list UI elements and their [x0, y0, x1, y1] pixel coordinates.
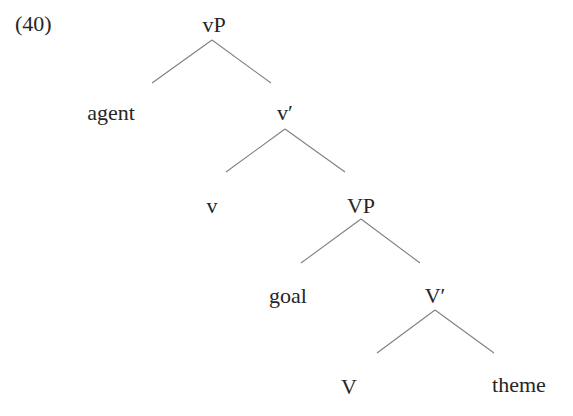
node-VP: VP	[347, 195, 375, 217]
node-V: V	[341, 376, 357, 398]
edge-vP-agent	[152, 40, 212, 83]
edge-v-bar-v	[226, 129, 285, 172]
node-v: v	[207, 195, 218, 217]
edge-VP-V-bar	[361, 219, 420, 263]
edge-VP-goal	[301, 219, 361, 263]
node-vP: vP	[202, 14, 225, 36]
edge-vP-v-bar	[212, 40, 271, 83]
node-v-bar: v′	[277, 102, 293, 124]
edge-V-bar-theme	[435, 310, 494, 353]
node-theme: theme	[492, 374, 546, 396]
edge-V-bar-V	[377, 310, 435, 353]
tree-edges	[0, 0, 573, 416]
node-goal: goal	[269, 285, 307, 307]
syntax-tree-diagram: (40) vP agent v′ v VP goal V′ V theme	[0, 0, 573, 416]
node-agent: agent	[87, 102, 135, 124]
node-V-bar: V′	[425, 285, 446, 307]
edge-v-bar-VP	[285, 129, 345, 172]
